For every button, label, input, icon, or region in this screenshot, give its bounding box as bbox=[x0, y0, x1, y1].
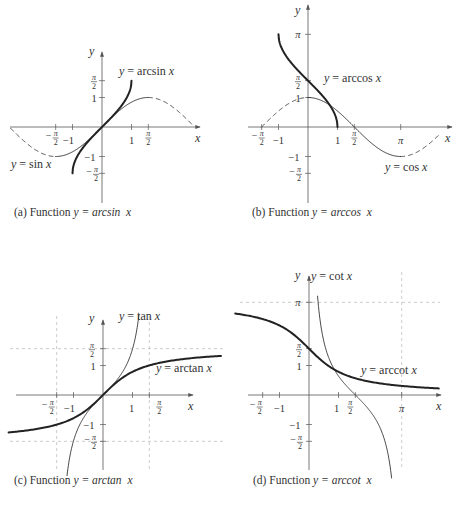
panel-d-arccot: yx−π2−11π2πππ21−1−π2y = cot xy = arccot … bbox=[235, 268, 442, 478]
minus-sign: − bbox=[289, 166, 295, 177]
minus-sign: − bbox=[42, 399, 48, 410]
caption-prefix: (b) Function bbox=[252, 206, 312, 218]
sin-dashed-right bbox=[148, 98, 193, 126]
annotation-arccos: y = arccos x bbox=[323, 71, 382, 85]
tick-label: −1 bbox=[64, 403, 75, 414]
tick-label-pi-half: −π2 bbox=[84, 433, 97, 451]
caption-func: y = arcsin bbox=[73, 206, 120, 218]
tick-label-pi-half: −π2 bbox=[289, 165, 302, 183]
panel-a-arcsin: yx−π2−11π2π21−1−π2y = arcsin xy = sin x bbox=[10, 44, 201, 203]
minus-sign: − bbox=[84, 434, 90, 445]
tick-label-pi-half: π2 bbox=[156, 398, 162, 416]
minus-sign: − bbox=[86, 166, 92, 177]
tick-label: −1 bbox=[288, 152, 299, 163]
fraction-numerator: π bbox=[54, 129, 59, 138]
tick-label-pi-half: π2 bbox=[145, 129, 151, 147]
fraction-numerator: π bbox=[157, 398, 162, 407]
x-axis-label: x bbox=[187, 399, 194, 413]
fraction-numerator: π bbox=[50, 398, 55, 407]
figure-canvas: yx−π2−11π2π21−1−π2y = arcsin xy = sin xy… bbox=[0, 0, 456, 507]
caption-func: y = arctan bbox=[73, 474, 121, 486]
fraction-denominator: 2 bbox=[348, 407, 352, 416]
tick-label: π bbox=[295, 29, 301, 40]
tick-label: 1 bbox=[334, 403, 339, 414]
caption-b: (b) Function y = arccos x bbox=[252, 206, 372, 218]
tick-label: 1 bbox=[91, 93, 96, 104]
fraction-numerator: π bbox=[348, 398, 353, 407]
fraction-denominator: 2 bbox=[297, 174, 301, 183]
minus-sign: − bbox=[250, 399, 256, 410]
tick-label: π bbox=[295, 297, 301, 308]
fraction-denominator: 2 bbox=[94, 174, 98, 183]
tick-label: 1 bbox=[129, 403, 134, 414]
fraction-numerator: π bbox=[298, 433, 303, 442]
fraction-denominator: 2 bbox=[92, 442, 96, 451]
fraction-denominator: 2 bbox=[157, 407, 161, 416]
caption-a: (a) Function y = arcsin x bbox=[14, 206, 131, 218]
y-axis-label: y bbox=[88, 44, 95, 58]
caption-var: x bbox=[127, 474, 132, 486]
tick-label-pi-half: π2 bbox=[89, 341, 95, 359]
tick-label-pi-half: −π2 bbox=[252, 129, 265, 147]
fraction-numerator: π bbox=[94, 165, 99, 174]
fraction-numerator: π bbox=[92, 73, 97, 82]
x-axis-label: x bbox=[194, 131, 201, 145]
fraction-denominator: 2 bbox=[54, 138, 58, 147]
caption-prefix: (c) Function bbox=[14, 474, 73, 486]
y-axis-label: y bbox=[294, 3, 301, 17]
arccot-curve bbox=[235, 314, 439, 389]
caption-func: y = arccot bbox=[313, 474, 361, 486]
annotation-cot: y = cot x bbox=[310, 269, 353, 283]
caption-var: x bbox=[366, 474, 371, 486]
fraction-denominator: 2 bbox=[296, 82, 300, 91]
panel-c-arctan: yx−π2−11π2π21−1−π2y = tan xy = arctan x bbox=[9, 309, 225, 476]
tick-label-pi-half: π2 bbox=[347, 398, 353, 416]
fraction-denominator: 2 bbox=[50, 407, 54, 416]
y-axis-label: y bbox=[294, 268, 301, 282]
tick-label-pi-half: π2 bbox=[295, 73, 301, 91]
panel-b-arccos: yx−π2−11π2πππ21−1−π2y = arccos xy = cos … bbox=[248, 3, 452, 203]
annotation-sin: y = sin x bbox=[10, 157, 52, 171]
tick-label: −1 bbox=[83, 420, 94, 431]
tick-label: −1 bbox=[63, 135, 74, 146]
caption-var: x bbox=[367, 206, 372, 218]
minus-sign: − bbox=[290, 434, 296, 445]
caption-d: (d) Function y = arccot x bbox=[253, 474, 372, 486]
fraction-denominator: 2 bbox=[298, 442, 302, 451]
fraction-numerator: π bbox=[146, 129, 151, 138]
tick-label-pi-half: −π2 bbox=[250, 398, 263, 416]
caption-func: y = arccos bbox=[312, 206, 361, 218]
tick-label-pi-half: −π2 bbox=[46, 129, 59, 147]
tick-label: 1 bbox=[296, 361, 301, 372]
annotation-arcsin: y = arcsin x bbox=[118, 64, 175, 78]
fraction-denominator: 2 bbox=[352, 138, 356, 147]
fraction-denominator: 2 bbox=[90, 350, 94, 359]
annotation-arccot: y = arccot x bbox=[360, 363, 417, 377]
fraction-denominator: 2 bbox=[297, 350, 301, 359]
minus-sign: − bbox=[46, 130, 52, 141]
tick-label: 1 bbox=[335, 135, 340, 146]
tick-label: −1 bbox=[84, 152, 95, 163]
tick-label-pi-half: π2 bbox=[351, 129, 357, 147]
y-axis-label: y bbox=[88, 311, 95, 325]
tick-label: −1 bbox=[289, 420, 300, 431]
fraction-numerator: π bbox=[352, 129, 357, 138]
caption-var: x bbox=[126, 206, 131, 218]
tick-label: −1 bbox=[274, 403, 285, 414]
x-axis-label: x bbox=[444, 131, 451, 145]
tick-label-pi-half: π2 bbox=[296, 341, 302, 359]
fraction-denominator: 2 bbox=[258, 407, 262, 416]
fraction-denominator: 2 bbox=[260, 138, 264, 147]
cot-curve bbox=[318, 296, 392, 478]
tick-label: 1 bbox=[129, 135, 134, 146]
annotation-tan: y = tan x bbox=[118, 309, 161, 323]
x-axis-label: x bbox=[435, 399, 442, 413]
tick-label: π bbox=[399, 403, 405, 414]
cos-dashed-left bbox=[262, 98, 308, 128]
annotation-cos: y = cos x bbox=[384, 160, 428, 174]
minus-sign: − bbox=[252, 130, 258, 141]
tick-label: 1 bbox=[90, 361, 95, 372]
tick-label: π bbox=[398, 135, 404, 146]
caption-prefix: (a) Function bbox=[14, 206, 73, 218]
cos-dashed-right bbox=[401, 133, 441, 156]
